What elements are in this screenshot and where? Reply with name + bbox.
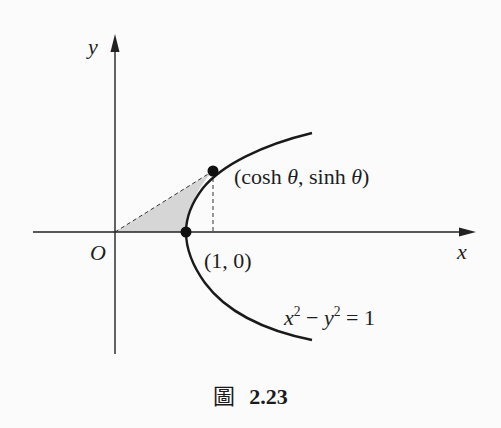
eq-rhs: = 1 [341,305,375,330]
x-axis-label: x [457,239,467,265]
eq-x-exponent: 2 [294,304,301,319]
hyperbola-diagram [0,0,501,428]
vertex-label: (1, 0) [204,248,252,274]
param-label-text: ) [362,164,369,189]
eq-x: x [284,305,294,330]
theta-symbol: θ [287,164,298,189]
y-axis-label: y [88,34,98,60]
caption-number: 2.23 [249,384,288,409]
param-point-dot [208,166,219,177]
caption-prefix: 圖 [213,384,235,409]
eq-y-exponent: 2 [334,304,341,319]
theta-symbol: θ [351,164,362,189]
vertex-point-dot [181,227,192,238]
x-axis-arrow-icon [459,228,476,237]
param-point-label: (cosh θ, sinh θ) [234,164,369,190]
figure-caption: 圖2.23 [0,378,501,410]
y-axis-arrow-icon [111,34,120,52]
equation-label: x2 − y2 = 1 [284,305,375,331]
eq-minus: − [301,305,324,330]
param-label-text: , sinh [298,164,351,189]
param-label-text: (cosh [234,164,287,189]
origin-label: O [90,240,106,266]
eq-y: y [324,305,334,330]
